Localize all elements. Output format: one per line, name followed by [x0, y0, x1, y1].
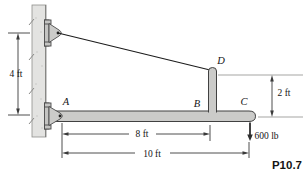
- dim-2ft-label: 2 ft: [278, 88, 291, 98]
- dim-2ft-arrow-up: [270, 75, 274, 82]
- load-arrowhead: [247, 135, 253, 142]
- pin-a: [59, 115, 62, 118]
- label-point-d: D: [216, 55, 225, 66]
- dim-8ft-arrow-right: [204, 132, 211, 136]
- label-point-c: C: [240, 96, 248, 107]
- bracket-bottom: [45, 103, 63, 129]
- label-point-a: A: [62, 96, 70, 107]
- figure-number: P10.7: [272, 159, 302, 171]
- figure-p10-7: 4 ft 2 ft 8 ft 10 ft 600 lb A B C D P10.…: [0, 0, 303, 183]
- label-point-b: B: [194, 98, 201, 109]
- dim-10ft-arrow-left: [62, 151, 69, 155]
- post: [209, 68, 217, 113]
- beam: [49, 111, 256, 122]
- dim-8ft-label: 8 ft: [136, 129, 149, 139]
- dim-10ft-label: 10 ft: [143, 149, 161, 159]
- dim-2ft-arrow-down: [270, 111, 274, 118]
- dim-10ft-arrow-right: [243, 151, 250, 155]
- load-label: 600 lb: [255, 131, 279, 141]
- dim-4ft-label: 4 ft: [10, 69, 23, 79]
- wall: [29, 5, 46, 137]
- dim-4ft-arrow-down: [16, 109, 20, 116]
- dim-4ft-arrow-up: [16, 33, 20, 40]
- load-arrow: [247, 123, 253, 142]
- dim-8ft-arrow-left: [62, 132, 69, 136]
- statics-diagram-canvas: 4 ft 2 ft 8 ft 10 ft 600 lb A B C D P10.…: [0, 0, 303, 183]
- cable: [58, 33, 210, 70]
- wall-strip: [32, 5, 46, 137]
